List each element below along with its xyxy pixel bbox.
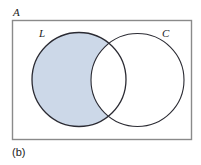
venn-diagram-canvas [0,0,201,165]
universe-set-label: A [13,7,20,18]
venn-diagram-figure: A L C (b) [0,0,201,165]
panel-caption: (b) [12,147,25,158]
set-label-c: C [162,28,169,39]
shaded-region-l-minus-c [0,0,201,165]
set-label-l: L [39,28,45,39]
